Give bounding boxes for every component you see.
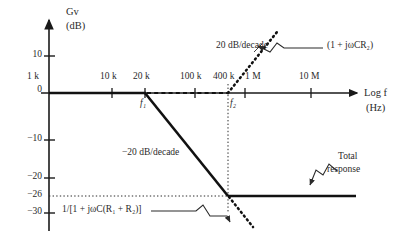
slope-down-label: −20 dB/decade: [122, 148, 179, 158]
x-tick-label-100k: 100 k: [180, 72, 201, 82]
break-frequency-f2-label: f₂: [230, 99, 236, 109]
x-axis-units: (Hz): [366, 102, 385, 113]
y-tick-label-minus20: −20: [8, 172, 42, 182]
pole-expr-leader: [151, 205, 230, 222]
y-tick-label-10: 10: [12, 50, 42, 60]
pole-transfer-function-label: 1/[1 + jωC(R₁ + R₂)]: [62, 205, 142, 215]
pole-asymptote-continuation: [229, 197, 253, 227]
zero-transfer-function-label: (1 + jωCR₂): [327, 41, 373, 51]
total-response-label-line1: Total: [338, 152, 357, 162]
total-response-label-line2: response: [327, 165, 360, 175]
y-tick-label-minus30: −30: [8, 207, 42, 217]
x-tick-label-1M: 1 M: [245, 72, 261, 82]
y-axis-title: Gv: [66, 6, 79, 17]
x-tick-label-20k: 20 k: [133, 72, 150, 82]
first-pole-rolloff-line: [145, 93, 228, 196]
y-axis-units: (dB): [66, 20, 85, 31]
x-tick-label-400k: 400 k: [213, 72, 234, 82]
bode-plot-figure: Gv (dB) Log f (Hz) 10 0 −10 −20 −26 −30 …: [0, 0, 409, 240]
slope-up-label: 20 dB/decade: [216, 41, 268, 51]
x-axis-title: Log f: [364, 87, 387, 98]
x-tick-label-1k: 1 k: [27, 72, 39, 82]
break-frequency-f1-label: f₁: [140, 99, 146, 109]
x-tick-label-10M: 10 M: [299, 72, 319, 82]
y-tick-label-0: 0: [12, 85, 42, 95]
y-tick-label-minus10: −10: [8, 134, 42, 144]
x-tick-label-10k: 10 k: [100, 72, 117, 82]
y-tick-label-minus26: −26: [8, 190, 42, 200]
